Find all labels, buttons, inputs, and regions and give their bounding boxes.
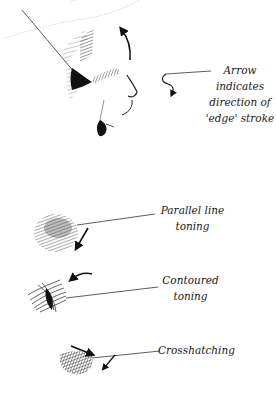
parallel-line-toning-swatch	[34, 214, 155, 252]
annotation-line: direction of	[205, 94, 275, 110]
annotation-line: indicates	[205, 78, 275, 94]
hair-outline	[5, 0, 140, 38]
annotation-line: Crosshatching	[158, 342, 233, 358]
annotation-line: toning	[155, 218, 230, 234]
contoured-toning-swatch	[28, 273, 158, 312]
annotation-line: 'edge' stroke	[205, 110, 275, 126]
annotation-crosshatching: Crosshatching	[158, 342, 233, 358]
sketch-illustration	[0, 0, 276, 395]
annotation-arrow-direction: Arrow indicates direction of 'edge' stro…	[205, 62, 275, 126]
annotation-line: toning	[158, 288, 223, 304]
head-sketch	[22, 10, 137, 136]
annotation-line: Parallel line	[155, 202, 230, 218]
annotation-line: Contoured	[158, 272, 223, 288]
crosshatching-swatch	[60, 346, 160, 374]
annotation-contoured-toning: Contoured toning	[158, 272, 223, 304]
annotation-parallel-line-toning: Parallel line toning	[155, 202, 230, 234]
annotation-line: Arrow	[205, 62, 275, 78]
edge-stroke-arrow	[162, 71, 211, 94]
